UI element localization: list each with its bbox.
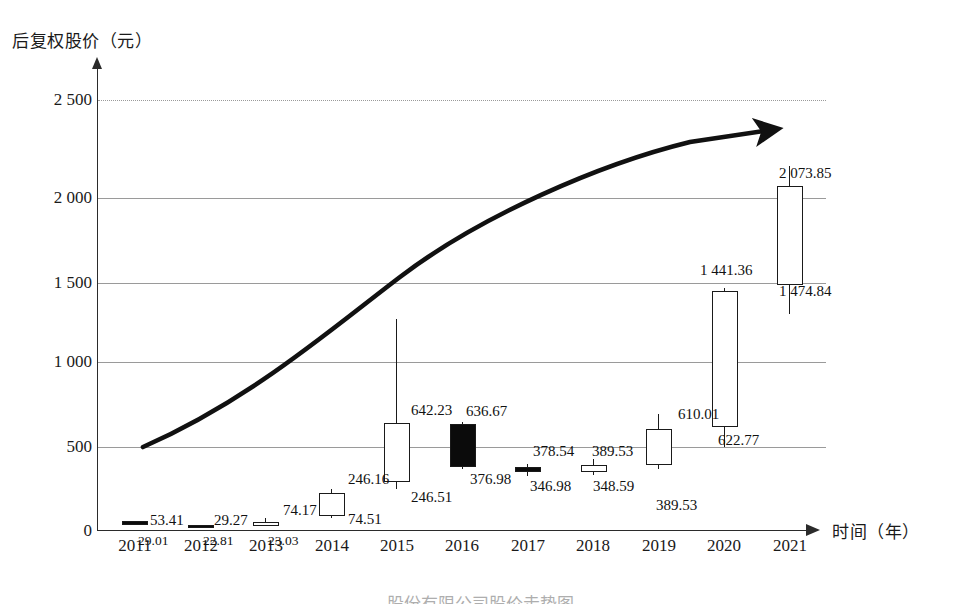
label-2018-low: 348.59 xyxy=(593,478,634,495)
label-2018-high: 389.53 xyxy=(592,443,633,460)
label-2021-high: 2 073.85 xyxy=(779,165,832,182)
label-2015-low: 246.51 xyxy=(411,489,452,506)
figure-caption: 股份有限公司股价走势图 xyxy=(0,590,961,604)
y-tick-0: 0 xyxy=(8,521,92,541)
x-axis-line xyxy=(98,530,810,531)
y-tick-500: 500 xyxy=(8,437,92,457)
gridline-2000 xyxy=(98,198,826,199)
chart-canvas: 后复权股价（元） 时间（年） 2 500 2 000 1 500 1 000 5… xyxy=(0,0,961,604)
label-2015-high: 642.23 xyxy=(411,402,452,419)
x-axis-title: 时间（年） xyxy=(832,518,920,543)
x-tick-2021: 2021 xyxy=(760,536,820,556)
candle-body-2016 xyxy=(450,424,476,467)
label-2017-low: 346.98 xyxy=(530,478,571,495)
candle-body-2021 xyxy=(777,186,803,285)
label-2021-low: 1 474.84 xyxy=(779,283,832,300)
x-tick-2019: 2019 xyxy=(629,536,689,556)
x-tick-2016: 2016 xyxy=(432,536,492,556)
label-2012-low: 22.81 xyxy=(203,533,233,549)
label-2014-low: 74.51 xyxy=(348,511,382,528)
x-tick-2018: 2018 xyxy=(563,536,623,556)
gridline-1500 xyxy=(98,283,826,284)
gridline-2500 xyxy=(98,100,826,101)
label-2016-high: 636.67 xyxy=(466,403,507,420)
label-2019-low: 389.53 xyxy=(656,497,697,514)
label-2016-low: 376.98 xyxy=(470,471,511,488)
label-2011-low: 29.01 xyxy=(138,533,168,549)
label-2012-high: 29.27 xyxy=(214,512,248,529)
candle-body-2019 xyxy=(646,429,672,466)
y-axis-title: 后复权股价（元） xyxy=(12,27,152,52)
label-2020-low: 622.77 xyxy=(718,432,759,449)
y-tick-2500: 2 500 xyxy=(8,90,92,110)
candle-body-2013 xyxy=(253,522,279,526)
label-2011-high: 53.41 xyxy=(150,512,184,529)
x-tick-2015: 2015 xyxy=(367,536,427,556)
label-2014-high: 246.16 xyxy=(348,471,389,488)
candle-body-2011 xyxy=(122,521,148,525)
y-tick-2000: 2 000 xyxy=(8,188,92,208)
label-2019-high: 610.01 xyxy=(678,406,719,423)
x-tick-2020: 2020 xyxy=(694,536,754,556)
candle-body-2012 xyxy=(188,525,214,528)
y-tick-1000: 1 000 xyxy=(8,352,92,372)
candle-body-2018 xyxy=(581,465,607,472)
label-2020-high: 1 441.36 xyxy=(700,262,753,279)
candle-body-2017 xyxy=(515,467,541,472)
y-tick-1500: 1 500 xyxy=(8,273,92,293)
label-2017-high: 378.54 xyxy=(533,443,574,460)
x-tick-2017: 2017 xyxy=(498,536,558,556)
label-2013-high: 74.17 xyxy=(283,502,317,519)
label-2013-low: 23.03 xyxy=(268,533,298,549)
y-axis-arrow-icon xyxy=(92,57,102,69)
x-tick-2014: 2014 xyxy=(302,536,362,556)
candle-body-2014 xyxy=(319,493,345,516)
